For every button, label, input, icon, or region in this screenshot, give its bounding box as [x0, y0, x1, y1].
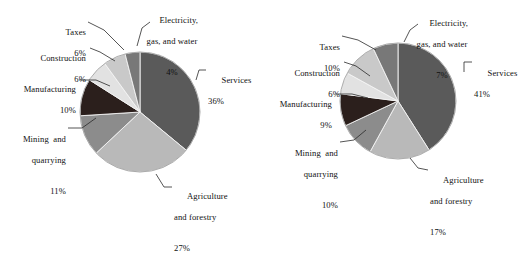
left-label-taxes-text: Taxes — [66, 27, 86, 37]
left-leader-1 — [90, 48, 115, 61]
left-label-electricity-text: Electricity, — [159, 15, 198, 25]
right-label-mining-text: Mining and — [295, 148, 338, 158]
left-label-electricity: Electricity, gas, and water 4% — [133, 5, 211, 99]
right-label-agriculture-text: Agriculture — [443, 175, 484, 185]
right-leader-0 — [342, 36, 376, 50]
right-label-mining-line2: quarrying — [272, 169, 338, 179]
right-label-construction-text: Construction — [294, 68, 340, 78]
left-label-mining: Mining and quarrying 11% — [0, 124, 66, 218]
left-label-mining-pct: 11% — [0, 186, 66, 196]
right-label-services-text: Services — [488, 68, 518, 78]
left-label-agriculture-pct: 27% — [174, 243, 246, 253]
right-label-services-pct: 41% — [474, 89, 518, 99]
right-label-agriculture-pct: 17% — [430, 227, 502, 237]
left-label-services-text: Services — [222, 75, 252, 85]
left-label-agriculture-line2: and forestry — [174, 212, 246, 222]
left-label-electricity-pct: 4% — [133, 67, 211, 77]
right-label-electricity-text: Electricity, — [429, 18, 468, 28]
left-label-manufacturing-text: Manufacturing — [24, 84, 76, 94]
left-label-electricity-line2: gas, and water — [133, 36, 211, 46]
right-label-manufacturing-text: Manufacturing — [280, 99, 332, 109]
right-label-taxes-text: Taxes — [320, 42, 340, 52]
right-leader-6 — [410, 158, 428, 170]
right-label-manufacturing-pct: 9% — [258, 120, 332, 130]
left-label-agriculture: Agriculture and forestry 27% — [174, 181, 246, 255]
right-label-mining: Mining and quarrying 10% — [272, 138, 338, 232]
left-label-services-pct: 36% — [208, 96, 256, 106]
left-label-mining-text: Mining and — [23, 134, 66, 144]
left-label-construction-text: Construction — [40, 53, 86, 63]
left-chart-panel: Taxes 6% Construction 6% Manufacturing 1… — [0, 0, 258, 223]
left-label-agriculture-text: Agriculture — [187, 191, 228, 201]
right-label-services: Services 41% — [474, 58, 518, 120]
left-label-mining-line2: quarrying — [0, 155, 66, 165]
right-label-mining-pct: 10% — [272, 200, 338, 210]
left-leader-0 — [88, 22, 124, 50]
right-label-electricity-line2: gas, and water — [403, 39, 481, 49]
left-label-manufacturing-pct: 10% — [0, 105, 76, 115]
left-leader-6 — [156, 174, 172, 187]
right-label-electricity-pct: 7% — [403, 70, 481, 80]
right-label-agriculture: Agriculture and forestry 17% — [430, 165, 502, 255]
left-label-services: Services 36% — [208, 65, 256, 127]
right-label-agriculture-line2: and forestry — [430, 196, 502, 206]
right-label-electricity: Electricity, gas, and water 7% — [403, 8, 481, 102]
right-chart-panel: Taxes 10% Construction 6% Manufacturing … — [258, 0, 516, 223]
